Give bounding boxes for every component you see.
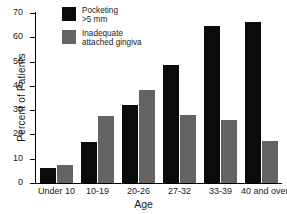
x-axis-label: 10-19 bbox=[77, 186, 118, 196]
y-axis-tick-label: 20 bbox=[13, 128, 23, 138]
y-axis-tick: 70 bbox=[30, 13, 35, 14]
x-axis-label: Under 10 bbox=[36, 186, 77, 196]
bar-chart: Percent of Patients 010203040506070 Unde… bbox=[0, 0, 287, 214]
bar-pocketing bbox=[122, 105, 138, 183]
bar-gingiva bbox=[98, 116, 114, 183]
y-axis-tick: 60 bbox=[30, 37, 35, 38]
legend-item-gingiva: Inadequate attached gingiva bbox=[62, 29, 182, 47]
bar-pocketing bbox=[40, 168, 56, 183]
legend-item-pocketing: Pocketing >5 mm bbox=[62, 6, 182, 24]
y-axis-tick-label: 40 bbox=[13, 80, 23, 90]
bar-group bbox=[241, 13, 282, 183]
x-axis-label: 33-39 bbox=[200, 186, 241, 196]
bar-pocketing bbox=[204, 26, 220, 183]
y-axis-tick: 0 bbox=[30, 183, 35, 184]
y-axis-tick-label: 60 bbox=[13, 31, 23, 41]
y-axis-tick: 20 bbox=[30, 134, 35, 135]
chart-legend: Pocketing >5 mm Inadequate attached ging… bbox=[62, 6, 182, 52]
y-axis-title: Percent of Patients bbox=[16, 33, 27, 163]
bar-gingiva bbox=[262, 141, 278, 184]
y-axis-tick: 10 bbox=[30, 159, 35, 160]
x-axis-label: 40 and over bbox=[241, 186, 282, 196]
y-axis-tick-label: 10 bbox=[13, 153, 23, 163]
legend-label-gingiva-line1: Inadequate bbox=[82, 29, 142, 38]
y-axis-tick: 40 bbox=[30, 86, 35, 87]
y-axis-tick-label: 70 bbox=[13, 7, 23, 17]
bar-gingiva bbox=[180, 115, 196, 183]
x-axis-label: 27-32 bbox=[159, 186, 200, 196]
bar-pocketing bbox=[163, 65, 179, 183]
bar-pocketing bbox=[81, 142, 97, 183]
x-axis-line bbox=[35, 183, 282, 184]
legend-label-gingiva: Inadequate attached gingiva bbox=[82, 29, 142, 47]
y-axis-tick-label: 30 bbox=[13, 104, 23, 114]
x-axis-label: 20-26 bbox=[118, 186, 159, 196]
bar-gingiva bbox=[221, 120, 237, 183]
bar-pocketing bbox=[245, 22, 261, 184]
bar-group bbox=[200, 13, 241, 183]
legend-label-pocketing-line1: Pocketing bbox=[82, 6, 118, 15]
y-axis-tick: 30 bbox=[30, 110, 35, 111]
legend-swatch-icon-gingiva bbox=[62, 30, 76, 44]
y-axis-tick: 50 bbox=[30, 62, 35, 63]
x-axis-title: Age bbox=[0, 198, 287, 210]
legend-swatch-icon-pocketing bbox=[62, 7, 76, 21]
y-axis-tick-label: 50 bbox=[13, 56, 23, 66]
legend-label-pocketing: Pocketing >5 mm bbox=[82, 6, 118, 24]
bar-gingiva bbox=[139, 90, 155, 184]
bar-gingiva bbox=[57, 165, 73, 183]
legend-label-gingiva-line2: attached gingiva bbox=[82, 38, 142, 47]
y-axis-tick-label: 0 bbox=[18, 177, 23, 187]
legend-label-pocketing-line2: >5 mm bbox=[82, 15, 118, 24]
